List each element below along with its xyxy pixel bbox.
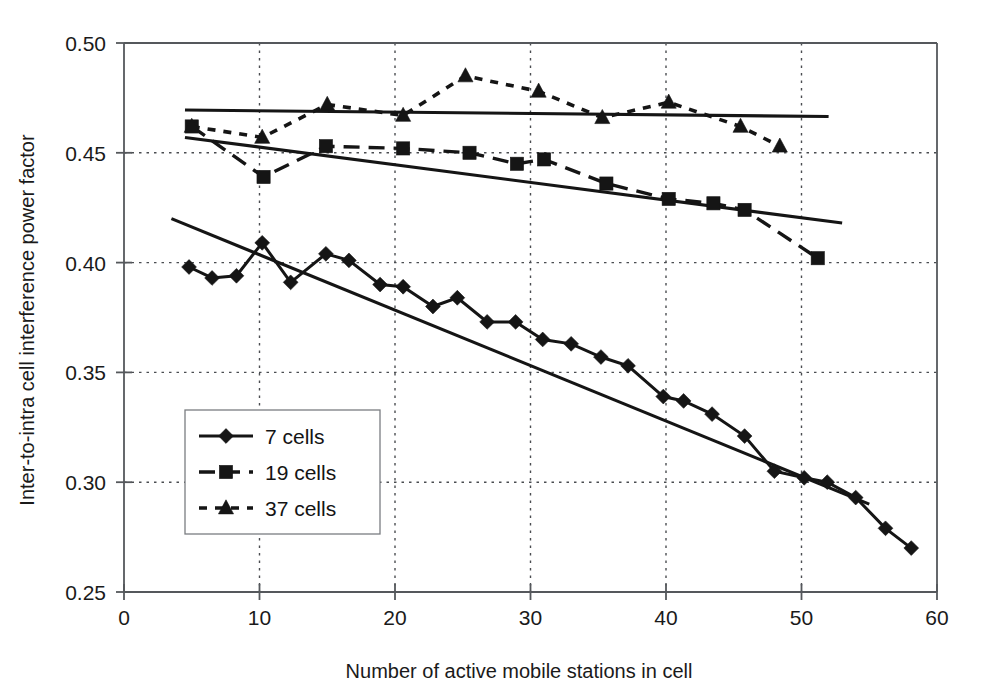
data-point — [661, 94, 676, 108]
legend-label: 37 cells — [265, 497, 336, 520]
x-tick-label: 20 — [383, 606, 406, 629]
series-19-cells — [185, 120, 842, 265]
data-point — [600, 177, 613, 190]
y-tick-label: 0.45 — [65, 142, 106, 165]
x-tick-label: 50 — [790, 606, 813, 629]
data-point — [257, 170, 270, 183]
data-point — [811, 252, 824, 265]
legend-marker-square-icon — [219, 465, 232, 478]
x-tick-label: 10 — [248, 606, 271, 629]
data-point — [458, 68, 473, 82]
x-axis-title: Number of active mobile stations in cell — [346, 660, 693, 682]
data-point — [707, 197, 720, 210]
trendline-2 — [185, 110, 829, 117]
data-point — [676, 394, 691, 409]
y-tick-label: 0.30 — [65, 471, 106, 494]
data-point — [510, 157, 523, 170]
series-37-cells — [184, 68, 828, 152]
data-point — [531, 83, 546, 97]
data-point — [564, 336, 579, 351]
data-point — [397, 142, 410, 155]
data-point — [320, 96, 335, 110]
x-tick-label: 30 — [519, 606, 542, 629]
legend-label: 19 cells — [265, 461, 336, 484]
data-point — [594, 350, 609, 365]
data-point — [508, 314, 523, 329]
legend: 7 cells19 cells37 cells — [185, 410, 380, 534]
data-point — [537, 153, 550, 166]
legend-label: 7 cells — [265, 425, 325, 448]
data-point — [205, 271, 220, 286]
data-point — [738, 203, 751, 216]
x-tick-label: 40 — [654, 606, 677, 629]
data-point — [772, 138, 787, 152]
y-tick-label: 0.35 — [65, 361, 106, 384]
data-point — [182, 260, 197, 275]
y-tick-label: 0.50 — [65, 32, 106, 55]
y-tick-label: 0.40 — [65, 252, 106, 275]
data-point — [319, 140, 332, 153]
data-point — [662, 192, 675, 205]
data-point — [820, 475, 835, 490]
y-axis-title: Inter-to-intra cell interference power f… — [16, 134, 38, 506]
series-path-1 — [192, 126, 818, 258]
chart-figure: 0.250.300.350.400.450.500102030405060 7 … — [0, 0, 981, 700]
x-tick-label: 60 — [925, 606, 948, 629]
data-point — [463, 146, 476, 159]
x-tick-label: 0 — [118, 606, 130, 629]
interference-power-factor-line-chart: 0.250.300.350.400.450.500102030405060 7 … — [0, 0, 981, 700]
y-tick-label: 0.25 — [65, 581, 106, 604]
data-point — [535, 332, 550, 347]
data-point — [797, 470, 812, 485]
